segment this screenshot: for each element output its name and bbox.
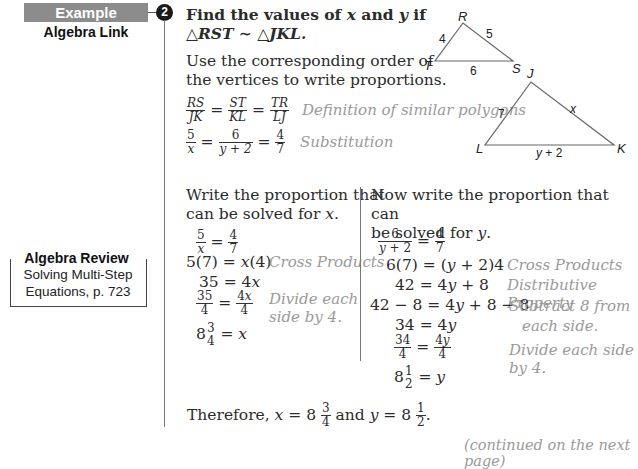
- svg-text:x: x: [569, 102, 577, 116]
- conclusion: Therefore, x = 8 34 and y = 8 12.: [187, 402, 431, 429]
- example-rule: [164, 20, 165, 427]
- svg-text:4: 4: [439, 32, 446, 46]
- instructions: Use the corresponding order of the verti…: [186, 52, 447, 90]
- svg-text:L: L: [476, 141, 483, 156]
- right-step-3: 42 = 4y + 8: [395, 276, 489, 294]
- svg-text:y + 2: y + 2: [535, 146, 563, 160]
- svg-text:5: 5: [486, 27, 493, 41]
- similarity-statement: △RST ∼ △JKL.: [186, 24, 426, 43]
- right-step-1: 6y + 2 = 47: [378, 228, 445, 255]
- svg-text:7: 7: [498, 107, 505, 121]
- triangle-rst: [435, 23, 513, 61]
- right-step-4-reason: Subtract 8 fromeach side.: [509, 296, 630, 336]
- left-step-2: 5(7) = x(4): [186, 253, 271, 271]
- left-column-intro: Write the proportion that can be solved …: [186, 186, 385, 224]
- problem-statement: Find the values of x and y if △RST ∼ △JK…: [186, 5, 426, 43]
- right-step-2-reason: Cross Products: [507, 256, 623, 274]
- left-step-4: 354 = 4x4: [196, 290, 253, 317]
- review-line-2: Equations, p. 723: [10, 283, 146, 300]
- svg-text:K: K: [617, 141, 627, 156]
- proportion-substitution: 5x = 6y + 2 = 47 Substitution: [186, 129, 393, 156]
- svg-text:T: T: [424, 58, 433, 73]
- right-step-2: 6(7) = (y + 2)4: [386, 256, 504, 274]
- review-line-1: Solving Multi-Step: [10, 266, 146, 283]
- algebra-review-title: Algebra Review: [20, 250, 133, 266]
- continued-note: (continued on the next page): [464, 437, 638, 469]
- left-step-5: 834 = x: [196, 322, 247, 348]
- instructions-line-1: Use the corresponding order of: [186, 52, 447, 71]
- left-step-1: 5x = 47: [196, 229, 238, 256]
- right-step-6: 344 = 4y4: [394, 334, 451, 361]
- example-banner: Example: [24, 3, 148, 22]
- svg-text:S: S: [512, 61, 521, 76]
- svg-text:R: R: [458, 9, 467, 24]
- column-divider: [360, 187, 361, 361]
- example-number-badge: 2: [156, 4, 173, 21]
- similar-triangles-diagram: R T S J L K 4 5 6 7 x y + 2: [410, 0, 638, 170]
- right-step-4: 42 − 8 = 4y + 8 − 8: [370, 296, 529, 314]
- svg-text:J: J: [526, 66, 534, 81]
- algebra-review-body: Solving Multi-Step Equations, p. 723: [10, 266, 146, 300]
- svg-text:6: 6: [470, 64, 477, 78]
- left-step-4-reason: Divide eachside by 4.: [269, 290, 358, 326]
- right-step-7: 812 = y: [394, 365, 445, 391]
- right-step-6-reason: Divide each side by 4.: [509, 341, 638, 377]
- banner-connector: [148, 12, 156, 13]
- right-intro-line-1: Now write the proportion that can: [371, 186, 638, 224]
- right-step-5: 34 = 4y: [395, 316, 456, 334]
- left-step-2-reason: Cross Products: [269, 253, 385, 271]
- instructions-line-2: the vertices to write proportions.: [186, 71, 447, 90]
- left-intro-line-1: Write the proportion that: [186, 186, 385, 205]
- algebra-link-label: Algebra Link: [24, 24, 148, 40]
- reason-note: Substitution: [300, 133, 393, 151]
